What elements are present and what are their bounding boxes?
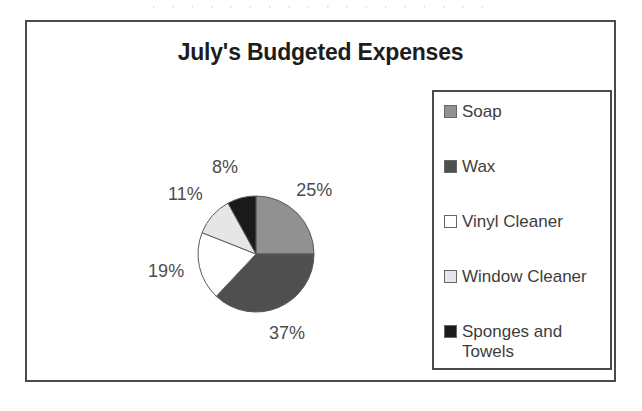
pie-chart-svg <box>112 117 402 347</box>
pie-slice[interactable] <box>256 196 314 254</box>
legend-item-label: Sponges and Towels <box>462 322 562 362</box>
legend-item-label: Wax <box>462 157 495 177</box>
pie-slice-label: 25% <box>296 180 332 201</box>
legend-item[interactable]: Sponges and Towels <box>444 322 610 377</box>
pie-chart: 25%37%19%11%8% <box>112 117 402 347</box>
legend-item-label: Soap <box>462 102 502 122</box>
chart-frame: July's Budgeted Expenses 25%37%19%11%8% … <box>25 20 616 382</box>
pie-slice-label: 37% <box>269 323 305 344</box>
legend-swatch-sponges-and-towels <box>444 325 457 338</box>
scan-artifact-text: · · · · · · · · · · · · · · · · · · <box>0 0 642 14</box>
pie-slice-label: 11% <box>168 184 203 205</box>
legend-items: SoapWaxVinyl CleanerWindow CleanerSponge… <box>444 102 610 377</box>
legend-swatch-window-cleaner <box>444 270 457 283</box>
legend-swatch-wax <box>444 160 457 173</box>
legend-swatch-soap <box>444 105 457 118</box>
legend-item-label: Vinyl Cleaner <box>462 212 563 232</box>
legend-item-label: Window Cleaner <box>462 267 587 287</box>
legend-item[interactable]: Soap <box>444 102 610 157</box>
chart-title: July's Budgeted Expenses <box>27 39 614 66</box>
legend-item[interactable]: Wax <box>444 157 610 212</box>
pie-slices <box>198 196 314 312</box>
pie-slice-label: 19% <box>148 261 184 282</box>
legend-item[interactable]: Vinyl Cleaner <box>444 212 610 267</box>
legend-item[interactable]: Window Cleaner <box>444 267 610 322</box>
legend-swatch-vinyl-cleaner <box>444 215 457 228</box>
pie-slice-label: 8% <box>212 157 238 178</box>
legend: SoapWaxVinyl CleanerWindow CleanerSponge… <box>432 90 612 370</box>
